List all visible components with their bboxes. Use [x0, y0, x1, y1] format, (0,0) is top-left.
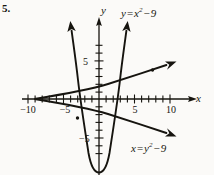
- eq-top-equals: =: [126, 7, 134, 19]
- equation-label-bottom: x=y2−9: [131, 142, 166, 154]
- y-tick-label-5: 5: [83, 56, 88, 67]
- x-tick-label-minus-10: −10: [20, 104, 36, 115]
- curve-point-marker-upper: [151, 68, 154, 71]
- y-axis-label: y: [101, 4, 106, 16]
- x-tick-label-minus-5: −5: [60, 104, 71, 115]
- curve-point-marker-lower: [76, 116, 79, 119]
- eq-bottom-equals: =: [136, 142, 144, 154]
- x-tick-label-10: 10: [166, 104, 176, 115]
- eq-top-minus: −: [143, 7, 151, 19]
- eq-bottom-constant: 9: [161, 142, 167, 154]
- eq-top-constant: 9: [151, 7, 157, 19]
- eq-bottom-minus: −: [153, 142, 161, 154]
- coordinate-plane-svg: [0, 0, 214, 175]
- graph-figure: 5.: [0, 0, 214, 175]
- y-tick-label-minus-5: −5: [79, 133, 90, 144]
- eq-bottom-exponent: 2: [149, 141, 153, 149]
- equation-label-top: y=x2−9: [121, 7, 156, 19]
- eq-top-exponent: 2: [139, 6, 143, 14]
- x-axis-label: x: [196, 92, 201, 104]
- x-tick-label-5: 5: [133, 104, 138, 115]
